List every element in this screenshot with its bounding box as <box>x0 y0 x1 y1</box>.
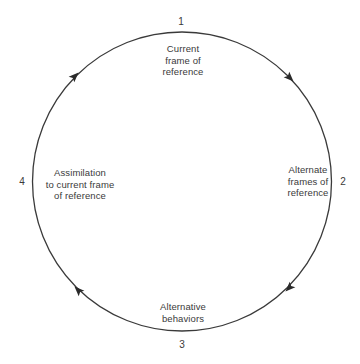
arrow-head-2-to-3-icon <box>283 282 296 295</box>
label-line: Alternate <box>278 164 338 176</box>
label-line: frame of <box>150 55 216 67</box>
label-line: frames of <box>278 176 338 188</box>
stage-label-current-frame: Current frame of reference <box>150 43 216 78</box>
stage-label-alternate-frames: Alternate frames of reference <box>278 164 338 199</box>
label-line: reference <box>278 187 338 199</box>
arrow-head-3-to-4-icon <box>72 284 85 297</box>
label-line: Assimilation <box>40 167 120 179</box>
stage-number-1: 1 <box>175 16 187 27</box>
stage-label-alternative-behaviors: Alternative behaviors <box>148 301 218 324</box>
stage-number-3: 3 <box>176 339 188 350</box>
label-line: behaviors <box>148 313 218 325</box>
arrow-head-4-to-1-icon <box>69 70 82 83</box>
cycle-diagram: 1 2 3 4 Current frame of reference Alter… <box>0 0 360 364</box>
label-line: Current <box>150 43 216 55</box>
stage-number-2: 2 <box>337 176 349 187</box>
label-line: reference <box>150 66 216 78</box>
label-line: to current frame <box>40 179 120 191</box>
stage-label-assimilation: Assimilation to current frame of referen… <box>40 167 120 202</box>
label-line: of reference <box>40 190 120 202</box>
stage-number-4: 4 <box>16 176 28 187</box>
label-line: Alternative <box>148 301 218 313</box>
